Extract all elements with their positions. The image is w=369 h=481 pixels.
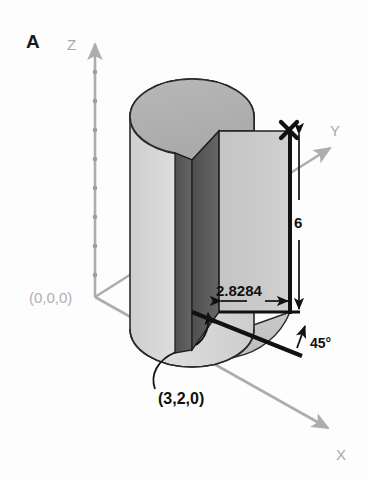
origin-label: (0,0,0) (29, 289, 72, 306)
height-dimension-label: 6 (294, 214, 302, 231)
x-axis-label: X (336, 446, 346, 463)
z-axis-tick (93, 128, 98, 133)
z-axis-tick (93, 70, 98, 75)
base-point-label: (3,2,0) (158, 390, 204, 407)
z-axis-tick (93, 215, 98, 220)
panel-letter: A (26, 31, 40, 52)
cylinder-solid (130, 79, 302, 367)
z-axis-tick (93, 244, 98, 249)
z-axis-tick (93, 273, 98, 278)
cylinder-wedge-diagram: A Z Y X (0,0,0) 6 2.8284 45° (3,2,0) (0, 0, 369, 481)
angle-dimension-label: 45° (310, 335, 331, 351)
angle-leader-arrow (297, 326, 305, 348)
figure-container: A Z Y X (0,0,0) 6 2.8284 45° (3,2,0) (0, 0, 369, 481)
wedge-inner-dark-face (175, 153, 192, 353)
z-axis-label: Z (67, 36, 76, 53)
width-dimension-label: 2.8284 (216, 282, 263, 299)
y-axis-label: Y (330, 122, 340, 139)
z-axis-tick (93, 186, 98, 191)
z-axis-tick (93, 99, 98, 104)
z-axis-tick (93, 157, 98, 162)
z-axis (93, 44, 98, 297)
